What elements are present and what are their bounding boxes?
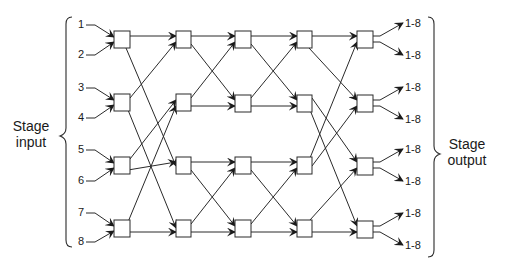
switch-s5-r1 [357, 31, 373, 48]
output-wires [373, 23, 403, 245]
stage-output-label-line2: output [448, 152, 487, 168]
switch-s5-r3 [357, 158, 373, 175]
output-6: 1-8 [405, 175, 421, 187]
stage-5-switches [357, 31, 373, 238]
switch-s2-r3 [176, 157, 191, 174]
output-1: 1-8 [405, 17, 421, 29]
switch-s5-r4 [357, 221, 373, 238]
output-labels: 1-8 1-8 1-8 1-8 1-8 1-8 1-8 1-8 [405, 17, 421, 251]
stage-2-switches [176, 31, 191, 237]
input-wires [86, 25, 114, 242]
switch-s3-r2 [235, 95, 251, 112]
switch-s1-r4 [114, 220, 130, 237]
wires-stage3-4 [251, 36, 297, 232]
output-3: 1-8 [405, 81, 421, 93]
stage-1-switches [114, 31, 130, 237]
input-6: 6 [78, 174, 84, 186]
switch-s3-r4 [235, 220, 251, 237]
switch-s3-r1 [235, 31, 251, 48]
stage-input-label-line2: input [16, 134, 46, 150]
output-4: 1-8 [405, 113, 421, 125]
stage-4-switches [297, 31, 312, 237]
wires-stage2-3 [191, 36, 235, 232]
input-brace [60, 17, 72, 247]
input-labels: 1 2 3 4 5 6 7 8 [78, 18, 84, 247]
switch-s4-r4 [297, 220, 312, 237]
output-5: 1-8 [405, 143, 421, 155]
switch-s1-r1 [114, 31, 130, 48]
network-diagram: Stage input Stage output 1 2 3 4 5 6 7 8 [0, 0, 506, 269]
output-8: 1-8 [405, 239, 421, 251]
stage-input-label-line1: Stage [13, 118, 50, 134]
switch-s3-r3 [235, 157, 251, 174]
input-8: 8 [78, 235, 84, 247]
input-2: 2 [78, 48, 84, 60]
input-7: 7 [78, 206, 84, 218]
stage-3-switches [235, 31, 251, 237]
stage-output-label-line1: Stage [449, 136, 486, 152]
output-2: 1-8 [405, 49, 421, 61]
switch-s2-r1 [176, 31, 191, 48]
input-1: 1 [78, 18, 84, 30]
switch-s2-r2 [176, 94, 191, 111]
output-brace [428, 17, 440, 257]
output-7: 1-8 [405, 207, 421, 219]
wires-stage1-2 [126, 36, 176, 232]
input-5: 5 [78, 143, 84, 155]
switch-s4-r1 [297, 31, 312, 48]
switch-s1-r2 [114, 94, 130, 111]
input-4: 4 [78, 111, 84, 123]
switch-s5-r2 [357, 95, 373, 112]
input-3: 3 [78, 81, 84, 93]
switch-s1-r3 [114, 157, 130, 174]
switch-s4-r2 [297, 95, 312, 112]
switch-s2-r4 [176, 220, 191, 237]
switch-s4-r3 [297, 157, 312, 174]
wires-stage4-5 [309, 36, 357, 232]
